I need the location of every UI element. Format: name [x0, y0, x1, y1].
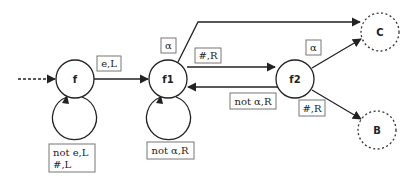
- label-f1-f2: #,R: [195, 48, 221, 63]
- state-f1-label: f1: [162, 74, 173, 85]
- label-f-f1-text: e,L: [101, 58, 117, 69]
- state-f2: f2: [276, 60, 314, 98]
- state-f2-label: f2: [289, 74, 300, 85]
- label-f-self-line1: not e,L: [53, 147, 89, 158]
- f1-self-loop: [147, 97, 191, 140]
- label-f-f1: e,L: [97, 56, 121, 71]
- label-f2-B-text: #,R: [302, 103, 322, 114]
- state-f-label: f: [73, 74, 78, 85]
- label-f1-f2-text: #,R: [198, 50, 218, 61]
- state-B: B: [358, 111, 396, 149]
- state-diagram: f f1 f2 C B e,L not e,L #,L not α,R α #,…: [0, 0, 418, 178]
- state-C-label: C: [376, 27, 383, 38]
- label-f-self-line2: #,L: [53, 159, 72, 170]
- state-f1: f1: [149, 60, 187, 98]
- state-C: C: [361, 13, 399, 51]
- label-f1-C-text: α: [165, 40, 172, 51]
- label-f1-C: α: [161, 38, 176, 53]
- label-f2-B: #,R: [299, 100, 325, 116]
- label-f2-f1-text: not α,R: [234, 96, 272, 107]
- label-f2-f1: not α,R: [230, 93, 276, 109]
- label-f-self: not e,L #,L: [49, 144, 95, 172]
- label-f2-C-text: α: [310, 42, 317, 53]
- label-f1-self-text: not α,R: [151, 145, 189, 156]
- label-f2-C: α: [306, 40, 321, 55]
- state-B-label: B: [373, 125, 381, 136]
- state-f: f: [56, 60, 94, 98]
- label-f1-self: not α,R: [147, 142, 194, 159]
- f-self-loop: [52, 97, 96, 140]
